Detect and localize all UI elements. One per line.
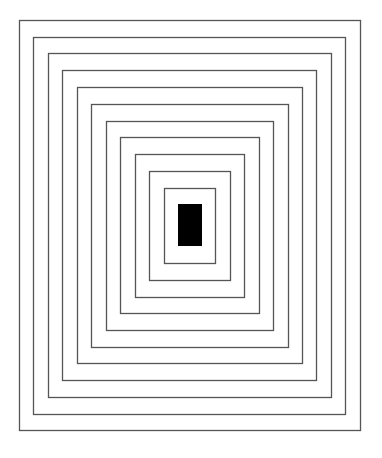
- center-black-block: [178, 204, 202, 246]
- nested-rectangles-diagram: [0, 0, 382, 458]
